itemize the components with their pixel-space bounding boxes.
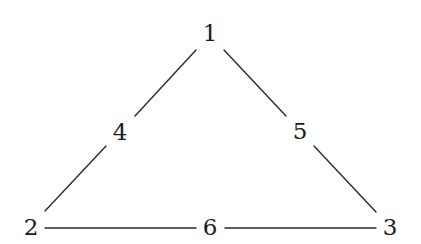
node-5-label: 5 xyxy=(293,120,308,143)
edge-4-2 xyxy=(45,146,106,211)
node-6-label: 6 xyxy=(203,216,218,239)
edge-1-4 xyxy=(135,50,196,116)
node-1-label: 1 xyxy=(203,22,218,45)
node-4-label: 4 xyxy=(113,121,128,144)
node-3-label: 3 xyxy=(383,216,398,239)
node-2-label: 2 xyxy=(24,216,39,239)
triangle-diagram: 1 2 3 4 5 6 xyxy=(0,0,421,244)
edge-1-5 xyxy=(224,50,286,116)
edge-5-3 xyxy=(314,146,376,212)
